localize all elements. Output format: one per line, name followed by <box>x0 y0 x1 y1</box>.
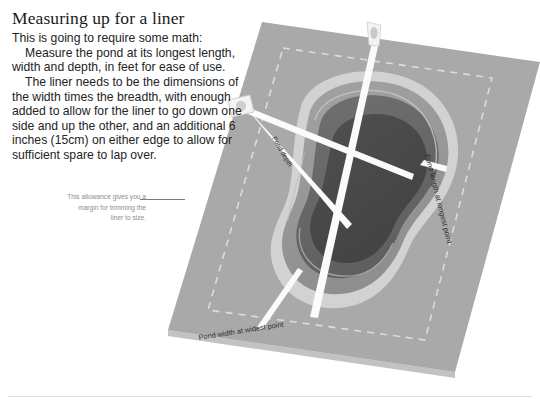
caption-allowance: This allowance gives you a margin for tr… <box>18 192 146 224</box>
book-page: Pond length at longest point Pond width … <box>0 0 540 408</box>
page-bottom-rule <box>8 396 532 397</box>
article-text-column: Measuring up for a liner This is going t… <box>12 8 252 162</box>
page-title: Measuring up for a liner <box>12 8 252 28</box>
paragraph-measure: Measure the pond at its longest length, … <box>12 46 252 75</box>
measuring-tape-top <box>367 22 381 46</box>
paragraph-intro: This is going to require some math: <box>12 31 252 46</box>
caption-line-1: This allowance gives you a <box>18 192 146 203</box>
caption-line-2: margin for trimming the <box>18 203 146 214</box>
paragraph-liner-dimensions: The liner needs to be the dimensions of … <box>12 75 252 163</box>
caption-leader-line <box>140 199 185 200</box>
caption-line-3: liner to size. <box>18 213 146 224</box>
